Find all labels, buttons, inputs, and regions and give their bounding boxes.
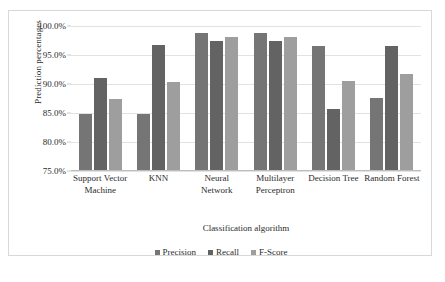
bar[interactable] (225, 37, 238, 171)
x-axis-category-label: Random Forest (363, 173, 421, 196)
bar[interactable] (109, 99, 122, 172)
x-axis-category-labels: Support Vector MachineKNNNeural NetworkM… (71, 173, 421, 196)
bar-group (129, 26, 187, 171)
bar[interactable] (79, 114, 92, 171)
legend-swatch-icon (155, 250, 160, 255)
legend-item[interactable]: Recall (208, 247, 239, 257)
bar[interactable] (94, 78, 107, 171)
bar-group (71, 26, 129, 171)
gridline (71, 171, 421, 172)
legend-label: Recall (216, 247, 239, 257)
x-axis-line (71, 170, 421, 171)
legend-swatch-icon (251, 250, 256, 255)
y-axis-tick-label: 95.0% (43, 50, 66, 60)
legend-swatch-icon (208, 250, 213, 255)
plot-area: 100.0%95.0%90.0%85.0%80.0%75.0% (71, 26, 421, 171)
chart-legend: PrecisionRecallF-Score (9, 247, 433, 257)
y-axis-tick-label: 90.0% (43, 79, 66, 89)
bar[interactable] (327, 109, 340, 171)
bar-group (246, 26, 304, 171)
bar-group (188, 26, 246, 171)
bar[interactable] (210, 41, 223, 172)
legend-item[interactable]: F-Score (251, 247, 288, 257)
figure: Prediction percentages 100.0%95.0%90.0%8… (0, 0, 445, 282)
y-axis-tick-label: 75.0% (43, 166, 66, 176)
bar[interactable] (152, 45, 165, 171)
y-axis-title: Prediction percentages (33, 0, 43, 127)
legend-label: Precision (163, 247, 197, 257)
x-axis-category-label: Decision Tree (304, 173, 362, 196)
y-axis-tick-label: 80.0% (43, 137, 66, 147)
bar[interactable] (370, 98, 383, 171)
bar-group (304, 26, 362, 171)
x-axis-category-label: KNN (129, 173, 187, 196)
x-axis-category-label: Neural Network (188, 173, 246, 196)
bar[interactable] (342, 81, 355, 171)
bar[interactable] (269, 41, 282, 172)
bar-group (363, 26, 421, 171)
bar[interactable] (195, 33, 208, 171)
bar[interactable] (284, 37, 297, 171)
bar[interactable] (254, 33, 267, 171)
x-axis-category-label: Multilayer Perceptron (246, 173, 304, 196)
bar[interactable] (167, 82, 180, 171)
chart-frame: Prediction percentages 100.0%95.0%90.0%8… (8, 10, 432, 256)
bar[interactable] (385, 46, 398, 171)
bar[interactable] (400, 74, 413, 171)
bars-layer (71, 26, 421, 171)
bar[interactable] (137, 114, 150, 171)
legend-item[interactable]: Precision (155, 247, 197, 257)
x-axis-category-label: Support Vector Machine (71, 173, 129, 196)
x-axis-title: Classification algorithm (71, 223, 421, 233)
legend-label: F-Score (259, 247, 288, 257)
y-axis-tick-label: 100.0% (38, 21, 66, 31)
figure-caption (0, 262, 445, 282)
y-axis-tick-label: 85.0% (43, 108, 66, 118)
bar[interactable] (312, 46, 325, 171)
